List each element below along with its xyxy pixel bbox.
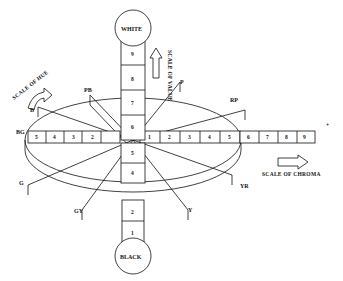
chroma-outer-step: 9 — [303, 134, 306, 140]
hue-label-b: B — [30, 107, 34, 113]
hue-label-rp: RP — [230, 97, 238, 103]
chroma-arrow-icon — [278, 155, 308, 169]
chroma-right-step: 5 — [228, 134, 231, 140]
chroma-right-step: 3 — [188, 134, 191, 140]
hue-label-yr: YR — [240, 183, 249, 189]
diagram-canvas: 5 4 3 2 1 2 3 4 5 6 7 8 9 + SCALE OF CHR… — [0, 0, 343, 281]
chroma-caption: SCALE OF CHROMA — [262, 171, 321, 177]
chroma-outer-step: 7 — [266, 134, 269, 140]
value-step: 1 — [131, 230, 134, 236]
chroma-outer-step: 8 — [285, 134, 288, 140]
value-arrow-icon — [150, 48, 162, 78]
chroma-left-step: 2 — [91, 134, 94, 140]
chroma-right-step: 2 — [168, 134, 171, 140]
value-step: 7 — [131, 100, 134, 106]
value-step: 9 — [131, 51, 134, 57]
hue-label-gy: GY — [74, 208, 84, 214]
black-label: BLACK — [120, 254, 142, 260]
hue-label-pb: PB — [84, 87, 92, 93]
hue-label-p: P — [180, 79, 184, 85]
hue-label-g: G — [19, 180, 24, 186]
value-caption: SCALE OF VALUE — [167, 50, 173, 101]
value-step: 2 — [131, 209, 134, 215]
value-step: 8 — [131, 76, 134, 82]
chroma-right-step: 4 — [208, 134, 211, 140]
chroma-right-step: 1 — [148, 134, 151, 140]
munsell-diagram: 5 4 3 2 1 2 3 4 5 6 7 8 9 + SCALE OF CHR… — [0, 0, 343, 281]
value-step: 5 — [131, 150, 134, 156]
white-label: WHITE — [121, 26, 142, 32]
hue-label-bg: BG — [16, 129, 25, 135]
chroma-end-marker: + — [326, 122, 329, 128]
value-step: 4 — [131, 170, 134, 176]
chroma-axis: 5 4 3 2 1 2 3 4 5 6 7 8 9 + — [28, 122, 329, 143]
value-step: 6 — [131, 124, 134, 130]
hue-label-y: Y — [188, 207, 193, 213]
chroma-left-step: 3 — [72, 134, 75, 140]
chroma-outer-step: 6 — [247, 134, 250, 140]
chroma-left-step: 4 — [53, 134, 56, 140]
chroma-left-step: 5 — [35, 134, 38, 140]
